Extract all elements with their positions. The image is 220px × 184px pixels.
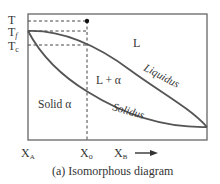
region-liquid-label: L	[133, 36, 140, 50]
solidus-label: Solidus	[111, 100, 145, 120]
label-tf: Tf	[8, 25, 19, 40]
state-point-dot	[85, 19, 89, 23]
label-xb: XB	[114, 146, 128, 161]
region-two-phase-label: L + α	[96, 74, 121, 86]
isomorphous-diagram: T Tf Tc L L + α Solid α Liquidus Solidus…	[0, 0, 220, 184]
region-solid-label: Solid α	[38, 98, 71, 110]
label-tc: Tc	[8, 39, 19, 54]
x-direction-arrow-icon	[135, 150, 158, 156]
liquidus-label: Liquidus	[141, 61, 182, 90]
diagram-caption: (a) Isomorphous diagram	[52, 164, 174, 178]
label-xa: XA	[21, 146, 35, 161]
label-xo: Xo	[80, 146, 93, 161]
